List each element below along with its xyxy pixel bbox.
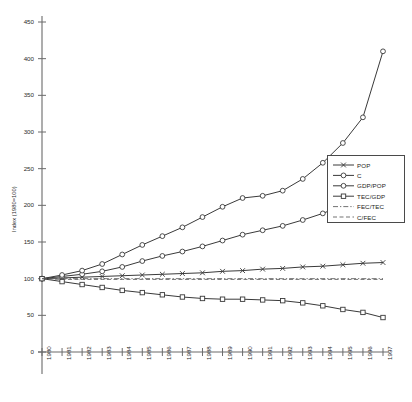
legend-item-label: C/FEC xyxy=(357,214,376,221)
data-point-marker xyxy=(361,310,365,314)
data-point-marker xyxy=(280,223,285,228)
legend-item-label: FEC/TEC xyxy=(357,203,384,210)
data-point-marker xyxy=(341,183,346,188)
data-point-marker xyxy=(120,265,125,270)
data-point-marker xyxy=(260,228,265,233)
data-point-marker xyxy=(320,160,325,165)
data-point-marker xyxy=(220,238,225,243)
chart-figure: Index (1980=100) 05010015020025030035040… xyxy=(0,0,412,402)
data-point-marker xyxy=(120,252,125,257)
data-point-marker xyxy=(60,273,65,278)
data-point-marker xyxy=(60,279,64,283)
series-tec-gdp xyxy=(40,276,385,319)
data-point-marker xyxy=(200,296,204,300)
data-point-marker xyxy=(361,115,366,120)
data-point-marker xyxy=(160,234,165,239)
data-point-marker xyxy=(220,297,224,301)
data-point-marker xyxy=(260,298,264,302)
data-point-marker xyxy=(381,49,386,54)
data-point-marker xyxy=(180,295,184,299)
data-point-marker xyxy=(260,193,265,198)
data-point-marker xyxy=(301,301,305,305)
data-point-marker xyxy=(341,194,345,198)
legend-item-c-fec[interactable]: C/FEC xyxy=(357,212,376,223)
legend-item-label: POP xyxy=(357,162,370,169)
data-point-marker xyxy=(300,177,305,182)
data-point-marker xyxy=(200,244,205,249)
series-pop xyxy=(40,260,386,281)
data-point-marker xyxy=(240,196,245,201)
data-point-marker xyxy=(120,288,124,292)
legend-item-label: GDP/POP xyxy=(357,182,386,189)
legend-item-gdp-pop[interactable]: GDP/POP xyxy=(357,180,386,191)
data-point-marker xyxy=(100,262,105,267)
data-point-marker xyxy=(320,211,325,216)
legend-item-pop[interactable]: POP xyxy=(357,160,370,171)
series-line xyxy=(42,263,383,279)
data-point-marker xyxy=(280,188,285,193)
data-point-marker xyxy=(200,215,205,220)
data-point-marker xyxy=(140,243,145,248)
data-point-marker xyxy=(160,293,164,297)
data-point-marker xyxy=(80,268,85,273)
legend-item-label: TEC/GDP xyxy=(357,193,385,200)
data-point-marker xyxy=(100,285,104,289)
data-point-marker xyxy=(300,218,305,223)
data-point-marker xyxy=(341,173,346,178)
data-point-marker xyxy=(281,298,285,302)
chart-legend: POPCGDP/POPTEC/GDPFEC/TECC/FEC xyxy=(327,155,405,223)
series-line xyxy=(42,279,383,318)
legend-item-c[interactable]: C xyxy=(357,170,362,181)
data-point-marker xyxy=(341,307,345,311)
data-point-marker xyxy=(160,254,165,259)
data-point-marker xyxy=(381,315,385,319)
data-point-marker xyxy=(180,249,185,254)
data-point-marker xyxy=(220,204,225,209)
data-point-marker xyxy=(80,282,84,286)
legend-item-tec-gdp[interactable]: TEC/GDP xyxy=(357,191,385,202)
data-point-marker xyxy=(180,225,185,230)
legend-item-label: C xyxy=(357,172,362,179)
legend-item-fec-tec[interactable]: FEC/TEC xyxy=(357,201,384,212)
data-point-marker xyxy=(240,232,245,237)
data-point-marker xyxy=(100,269,105,274)
data-point-marker xyxy=(140,290,144,294)
data-point-marker xyxy=(240,297,244,301)
data-point-marker xyxy=(140,259,145,264)
data-point-marker xyxy=(321,304,325,308)
data-point-marker xyxy=(340,141,345,146)
